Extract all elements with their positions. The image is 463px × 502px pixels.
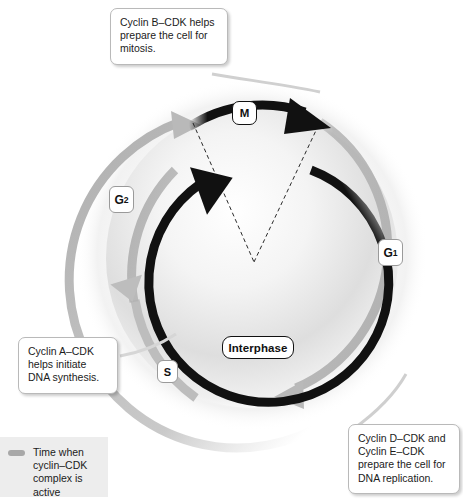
phase-label-g2-text: G bbox=[114, 193, 123, 207]
interphase-label: Interphase bbox=[222, 336, 294, 359]
phase-label-g2: G2 bbox=[109, 186, 134, 213]
legend-swatch-icon bbox=[8, 450, 25, 456]
phase-label-g1: G1 bbox=[378, 239, 403, 266]
cell-cycle-diagram: G2 G1 S M Interphase Cyclin B–CDK helps … bbox=[0, 0, 463, 502]
legend-text: Time when cyclin–CDK complex is active bbox=[33, 446, 102, 499]
phase-label-g1-subscript: 1 bbox=[393, 248, 398, 258]
callout-cyclin-b-text: Cyclin B–CDK helps prepare the cell for … bbox=[120, 16, 215, 54]
phase-label-g1-text: G bbox=[383, 246, 392, 260]
phase-label-g2-subscript: 2 bbox=[124, 195, 129, 205]
callout-cyclin-de-text: Cyclin D–CDK and Cyclin E–CDK prepare th… bbox=[358, 432, 446, 484]
phase-label-m: M bbox=[232, 101, 257, 125]
callout-cyclin-a: Cyclin A–CDK helps initiate DNA synthesi… bbox=[18, 337, 118, 394]
interphase-label-text: Interphase bbox=[228, 342, 287, 354]
callout-cyclin-de: Cyclin D–CDK and Cyclin E–CDK prepare th… bbox=[348, 424, 460, 494]
phase-label-s: S bbox=[157, 360, 178, 383]
callout-cyclin-a-text: Cyclin A–CDK helps initiate DNA synthesi… bbox=[28, 345, 99, 383]
phase-label-s-text: S bbox=[164, 366, 171, 378]
phase-label-m-text: M bbox=[240, 107, 250, 119]
legend: Time when cyclin–CDK complex is active bbox=[0, 437, 108, 497]
callout-cyclin-b: Cyclin B–CDK helps prepare the cell for … bbox=[110, 8, 228, 65]
